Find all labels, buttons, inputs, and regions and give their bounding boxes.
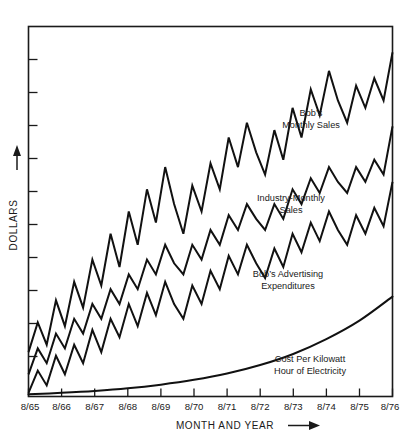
series-annotation-bobs-advertising-expenditures: Bob’s Advertising Expenditures: [253, 269, 323, 291]
series-annotation-line2: Monthly Sales: [282, 120, 340, 130]
series-annotation-line1: Bob’s Advertising: [253, 269, 323, 279]
chart-figure: 8/65 8/66 8/67 8/68 8/69 8/70 8/71 8/72 …: [0, 0, 411, 436]
x-tick-label: 8/70: [185, 401, 204, 412]
x-tick-label: 8/71: [218, 401, 237, 412]
series-annotation-line2: Sales: [280, 205, 303, 215]
series-annotation-cost-per-kilowatt-hour: Cost Per Kilowatt Hour of Electricity: [274, 354, 346, 376]
x-tick-label: 8/66: [52, 401, 71, 412]
x-tick-label: 8/65: [21, 401, 40, 412]
x-tick-label: 8/69: [152, 401, 171, 412]
series-annotation-line2: Expenditures: [261, 281, 315, 291]
line-chart-svg: 8/65 8/66 8/67 8/68 8/69 8/70 8/71 8/72 …: [0, 0, 411, 436]
y-axis-title: DOLLARS: [8, 200, 19, 251]
x-tick-label: 8/68: [118, 401, 137, 412]
x-tick-label: 8/67: [85, 401, 104, 412]
y-axis-title-group: DOLLARS: [8, 145, 21, 250]
series-annotation-industry-monthly-sales: Industry-Monthly Sales: [257, 193, 325, 215]
x-tick-label: 8/73: [284, 401, 303, 412]
x-tick-label: 8/72: [251, 401, 270, 412]
x-axis-arrow-icon: [309, 421, 320, 430]
y-axis-ticks: [29, 60, 38, 357]
x-tick-labels: 8/65 8/66 8/67 8/68 8/69 8/70 8/71 8/72 …: [21, 401, 400, 412]
x-tick-label: 8/74: [317, 401, 336, 412]
x-tick-label: 8/75: [350, 401, 369, 412]
x-tick-label: 8/76: [381, 401, 400, 412]
x-axis-title-group: MONTH AND YEAR: [176, 420, 320, 431]
series-line-bobs-monthly-sales: [29, 52, 393, 352]
plot-area-border: [29, 27, 393, 397]
x-axis-title: MONTH AND YEAR: [176, 420, 274, 431]
series-line-cost-per-kilowatt-hour: [29, 297, 393, 395]
series-annotation-line1: Cost Per Kilowatt: [275, 354, 346, 364]
series-annotation-line2: Hour of Electricity: [274, 366, 346, 376]
series-annotation-line1: Bob’s: [300, 108, 323, 118]
y-axis-arrow-icon: [13, 145, 21, 156]
series-annotation-line1: Industry-Monthly: [257, 193, 325, 203]
